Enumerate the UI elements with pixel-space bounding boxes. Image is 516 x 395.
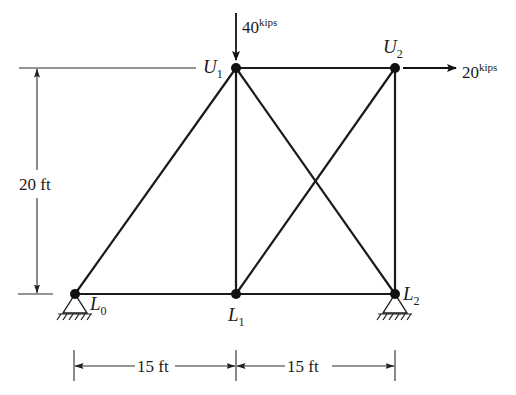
dimension-height: 20 ft [17, 68, 196, 294]
member-L0-U1 [75, 68, 236, 294]
joint-U1 [231, 63, 241, 73]
joint-L0 [70, 289, 80, 299]
dimension-spans: 15 ft 15 ft [74, 350, 395, 381]
truss-members [75, 68, 395, 294]
load-U2: 20kips [403, 61, 497, 82]
joint-L1 [231, 289, 241, 299]
span-1-label: 15 ft [137, 357, 169, 376]
load-U1: 40kips [236, 13, 277, 60]
joint-U2 [390, 63, 400, 73]
label-L2: L2 [402, 283, 420, 308]
height-dimension-label: 20 ft [19, 175, 51, 194]
load-U1-value: 40 [242, 18, 259, 37]
load-U2-unit: kips [479, 61, 497, 73]
svg-text:40kips: 40kips [242, 16, 277, 37]
load-U1-unit: kips [259, 16, 277, 28]
svg-text:20kips: 20kips [462, 61, 497, 82]
load-U2-value: 20 [462, 63, 479, 82]
span-2-label: 15 ft [287, 357, 319, 376]
truss-diagram: L0 L1 L2 U1 U2 40kips 20kips 20 ft 15 ft… [0, 0, 516, 395]
joint-L2 [390, 289, 400, 299]
label-U2: U2 [383, 36, 403, 61]
label-L1: L1 [227, 304, 245, 329]
label-U1: U1 [203, 56, 223, 81]
